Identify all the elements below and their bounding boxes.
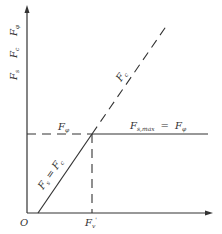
svg-text:Fc: Fc	[8, 47, 20, 59]
x-axis-arrow-icon	[205, 211, 213, 216]
svg-text:Fs=Fc: Fs=Fc	[35, 156, 66, 193]
fs-eq-fc-label: Fs=Fc	[35, 156, 66, 193]
y-axis	[25, 5, 30, 213]
fv-prime-label: Fv'	[84, 216, 97, 229]
svg-text:Fs: Fs	[8, 70, 20, 81]
dashed-diagonal-fc	[92, 25, 167, 134]
y-axis-label: Fs Fc Fφ	[8, 24, 21, 81]
fsmax-label: Fs,max=Fφ	[129, 120, 187, 133]
svg-text:Fφ: Fφ	[8, 24, 21, 37]
origin-label: O	[20, 217, 28, 228]
y-axis-arrow-icon	[25, 5, 30, 13]
force-diagram: Fs Fc Fφ Fc Fφ Fs,max=Fφ Fs=Fc O Fv'	[0, 0, 222, 234]
fphi-label: Fφ	[57, 121, 70, 134]
x-axis	[27, 211, 213, 216]
